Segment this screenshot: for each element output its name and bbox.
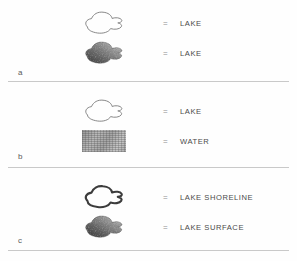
panel-letter-a: a [18, 68, 23, 77]
equals-sign: = [163, 8, 168, 38]
legend-label: LAKE [180, 96, 202, 126]
equals-sign: = [163, 212, 168, 242]
lake-filled-shaded-icon [70, 38, 138, 68]
legend-label: WATER [180, 126, 209, 156]
panel-b: = LAKE = WATER b [0, 88, 297, 174]
panel-divider [8, 81, 289, 82]
lake-outline-thick-icon [70, 182, 138, 212]
panel-a: = LAKE [0, 0, 297, 88]
legend-label: LAKE SHORELINE [180, 182, 253, 212]
equals-sign: = [163, 126, 168, 156]
panel-letter-b: b [18, 152, 23, 161]
panel-divider [8, 167, 289, 168]
equals-sign: = [163, 96, 168, 126]
equals-sign: = [163, 38, 168, 68]
equals-sign: = [163, 182, 168, 212]
panel-letter-c: c [18, 236, 22, 245]
lake-outline-thin-icon [70, 96, 138, 126]
legend-label: LAKE SURFACE [180, 212, 244, 242]
lake-filled-shaded-icon [70, 212, 138, 242]
water-texture-swatch-icon [70, 126, 138, 156]
lake-outline-thin-icon [70, 8, 138, 38]
legend-label: LAKE [180, 8, 202, 38]
legend-figure: = LAKE [0, 0, 297, 261]
panel-c: = LAKE SHORELINE [0, 174, 297, 261]
panel-divider [8, 250, 289, 251]
legend-label: LAKE [180, 38, 202, 68]
